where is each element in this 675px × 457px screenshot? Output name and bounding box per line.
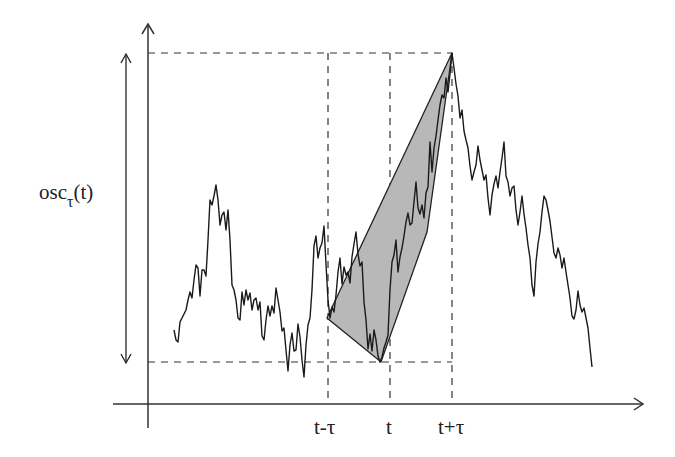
diagram-canvas bbox=[0, 0, 675, 457]
y-label-main: osc bbox=[39, 180, 67, 204]
y-label-subscript: τ bbox=[67, 193, 73, 210]
x-tick-t-plus-tau: t+τ bbox=[438, 415, 464, 440]
y-label-suffix: (t) bbox=[73, 180, 93, 204]
osc-double-arrow bbox=[121, 54, 131, 363]
y-axis bbox=[142, 24, 154, 428]
y-axis-label: oscτ(t) bbox=[39, 180, 93, 205]
x-axis bbox=[113, 398, 643, 410]
x-tick-t: t bbox=[386, 415, 392, 440]
x-tick-t-minus-tau: t-τ bbox=[314, 415, 335, 440]
